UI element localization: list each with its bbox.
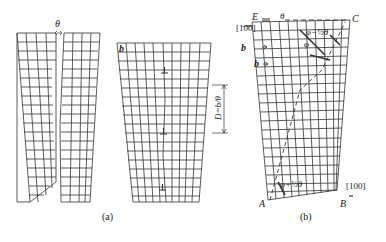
burgers-vector-label-a: b bbox=[119, 44, 124, 54]
corner-label-e: E bbox=[252, 12, 258, 22]
corner-label-a: A bbox=[259, 199, 265, 209]
theta-label-b: θ bbox=[280, 12, 284, 21]
burgers-vector-label-b2: b bbox=[254, 59, 259, 69]
angle-label-bottom: φ+½θ bbox=[280, 180, 302, 189]
corner-label-c: C bbox=[352, 14, 359, 24]
caption-a: (a) bbox=[102, 212, 113, 222]
caption-b: (b) bbox=[300, 212, 312, 222]
grain-right-a bbox=[60, 33, 100, 202]
low-angle-boundary-a bbox=[117, 43, 228, 202]
angle-label-top: φ−½θ bbox=[306, 28, 328, 37]
burgers-vector-label-b1: b bbox=[241, 43, 246, 53]
angle-label-phi: φ bbox=[304, 40, 309, 49]
direction-label-bottom: [100] bbox=[346, 182, 366, 191]
dislocation-spacing-label: D=b/θ bbox=[214, 96, 223, 120]
theta-label-a: θ bbox=[55, 19, 60, 29]
corner-label-b: B bbox=[340, 199, 346, 209]
tilt-boundary-b bbox=[245, 19, 353, 200]
direction-label-top: [1̄00] bbox=[236, 24, 256, 33]
grain-left-a bbox=[17, 33, 56, 202]
